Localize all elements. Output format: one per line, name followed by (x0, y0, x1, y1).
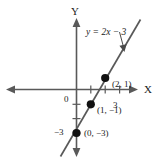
equation-label: y = 2x − 3 (86, 28, 126, 38)
graph-canvas (0, 0, 161, 163)
point-label-1-minus1: (1, −1) (97, 106, 122, 115)
y-axis-up-arrowhead (73, 18, 81, 27)
origin-label: 0 (64, 95, 69, 104)
y-axis-label: Y (71, 6, 79, 17)
x-axis-left-arrowhead (6, 86, 15, 94)
point-label-2-1: (2, 1) (112, 80, 132, 89)
point-0-minus3 (72, 129, 80, 137)
y-tick-label-minus-3: −3 (54, 128, 64, 137)
point-1-minus1 (87, 100, 95, 108)
y-axis-down-arrowhead (73, 148, 81, 157)
point-2-1 (101, 74, 109, 82)
coordinate-graph-figure: Y X 0 3 −3 y = 2x − 3 (2, 1) (1, −1) (0,… (0, 0, 161, 163)
point-label-0-minus3: (0, −3) (84, 129, 109, 138)
x-axis-label: X (144, 84, 152, 95)
